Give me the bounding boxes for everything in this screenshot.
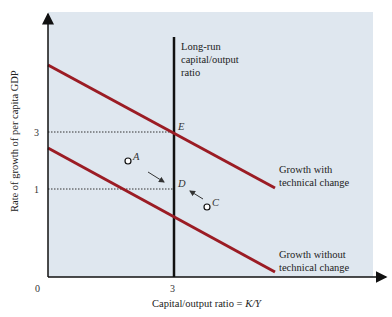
without-tech-label-2: technical change: [279, 262, 350, 273]
origin-label: 0: [35, 283, 40, 294]
vline-label-1: Long-run: [181, 41, 221, 52]
point-c-label: C: [212, 197, 220, 208]
with-tech-label-2: technical change: [279, 177, 350, 188]
y-tick-3: 3: [34, 127, 39, 138]
vline-label-2: capital/output: [181, 54, 239, 65]
vline-label-3: ratio: [181, 67, 200, 78]
without-tech-label-1: Growth without: [279, 249, 346, 260]
point-a-marker: [125, 158, 131, 164]
y-tick-1: 1: [34, 184, 39, 195]
point-c-marker: [204, 204, 210, 210]
point-e-label: E: [177, 121, 185, 132]
point-a-label: A: [132, 151, 140, 162]
y-axis-label: Rate of growth of per capita GDP: [9, 70, 20, 212]
with-tech-label-1: Growth with: [279, 164, 333, 175]
x-axis-label: Capital/output ratio = K/Y: [152, 298, 262, 309]
point-d-label: D: [177, 178, 186, 189]
x-tick-3: 3: [170, 283, 175, 294]
growth-chart: E D A C Long-run capital/output ratio Gr…: [0, 0, 392, 317]
